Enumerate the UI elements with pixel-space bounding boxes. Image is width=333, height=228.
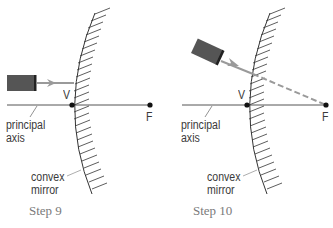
vertex-label: V	[63, 89, 70, 102]
principal-axis-label-line2: axis	[181, 132, 200, 145]
focus-point	[147, 102, 152, 107]
step9-panel	[7, 8, 153, 194]
axis-leader	[30, 106, 37, 117]
step-9-caption: Step 9	[29, 203, 62, 219]
dashed-extension-line	[253, 74, 326, 105]
principal-axis-label-line2: axis	[6, 132, 25, 145]
focus-label: F	[146, 111, 152, 124]
vertex-point	[244, 102, 249, 107]
axis-leader	[205, 106, 212, 117]
convex-mirror-label-line2: mirror	[31, 184, 59, 197]
step-10-caption: Step 10	[193, 203, 232, 219]
focus-point	[323, 102, 328, 107]
step10-panel	[182, 8, 329, 194]
flashlight-icon	[191, 38, 224, 65]
mirror-hatching	[249, 8, 285, 189]
mirror-leader	[243, 170, 257, 176]
incident-ray	[221, 61, 253, 74]
flashlight-icon	[7, 75, 35, 91]
vertex-label: V	[238, 89, 245, 102]
focus-label: F	[322, 111, 328, 124]
mirror-hatching	[74, 8, 110, 189]
ray-arrow-icon	[227, 58, 239, 66]
mirror-leader	[67, 170, 81, 176]
vertex-point	[69, 102, 74, 107]
convex-mirror-label-line2: mirror	[207, 184, 235, 197]
